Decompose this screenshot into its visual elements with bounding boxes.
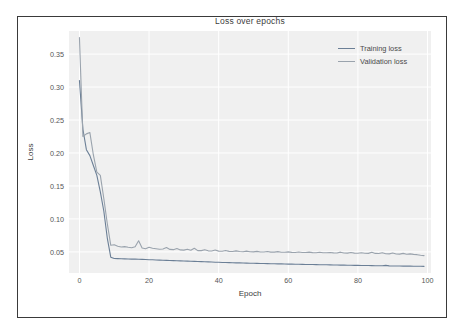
series-line (79, 80, 424, 266)
y-tick-label: 0.05 (50, 247, 64, 256)
y-tick-label: 0.20 (50, 148, 64, 157)
legend-line-swatch (338, 61, 355, 62)
series-line (79, 38, 424, 256)
x-tick-label: 20 (145, 276, 153, 285)
y-tick-label: 0.25 (50, 116, 64, 125)
legend-label: Validation loss (360, 57, 407, 66)
y-axis-tick-labels: 0.050.100.150.200.250.300.35 (18, 31, 64, 273)
figure-frame: Loss over epochs 0.050.100.150.200.250.3… (17, 16, 447, 318)
x-tick-label: 80 (354, 276, 362, 285)
legend-entry[interactable]: Validation loss (338, 57, 407, 66)
legend-entry[interactable]: Training loss (338, 44, 407, 53)
y-tick-label: 0.10 (50, 214, 64, 223)
chart-legend: Training lossValidation loss (334, 41, 411, 69)
legend-label: Training loss (360, 44, 402, 53)
x-tick-label: 40 (215, 276, 223, 285)
y-tick-label: 0.35 (50, 50, 64, 59)
y-tick-label: 0.15 (50, 181, 64, 190)
x-tick-label: 0 (77, 276, 81, 285)
x-tick-label: 60 (284, 276, 292, 285)
y-tick-label: 0.30 (50, 83, 64, 92)
page-title: Loss over epochs (69, 16, 431, 26)
x-axis-label: Epoch (69, 289, 431, 298)
x-axis-tick-labels: 020406080100 (69, 276, 431, 290)
legend-line-swatch (338, 48, 355, 49)
y-axis-label: Loss (26, 31, 38, 273)
figure-canvas: Loss over epochs 0.050.100.150.200.250.3… (0, 0, 463, 333)
x-tick-label: 100 (422, 276, 434, 285)
